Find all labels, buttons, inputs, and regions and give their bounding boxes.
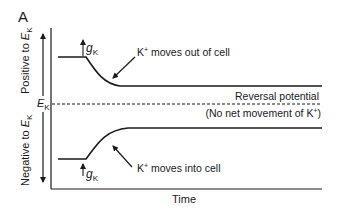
gk-label-lower: gK [86,167,99,183]
ek-label: EK [37,97,50,112]
upper-trace [58,57,322,86]
y-label-negative: Negative to EK [19,114,34,186]
annotation-arrow-in-icon [113,146,132,167]
lower-trace [58,128,322,159]
no-net-movement-label: (No net movement of K+) [205,107,321,119]
reversal-potential-label: Reversal potential [235,90,319,102]
panel-label: A [18,8,28,25]
y-label-positive: Positive to EK [19,27,34,94]
k-moves-in-label: K+ moves into cell [137,162,220,174]
annotation-arrow-out-icon [113,57,135,78]
x-axis-label: Time [172,193,196,205]
potassium-reversal-diagram: A Positive to EK Negative to EK EK Rever… [0,0,342,212]
gk-label-upper: gK [86,41,99,57]
k-moves-out-label: K+ moves out of cell [137,46,230,58]
